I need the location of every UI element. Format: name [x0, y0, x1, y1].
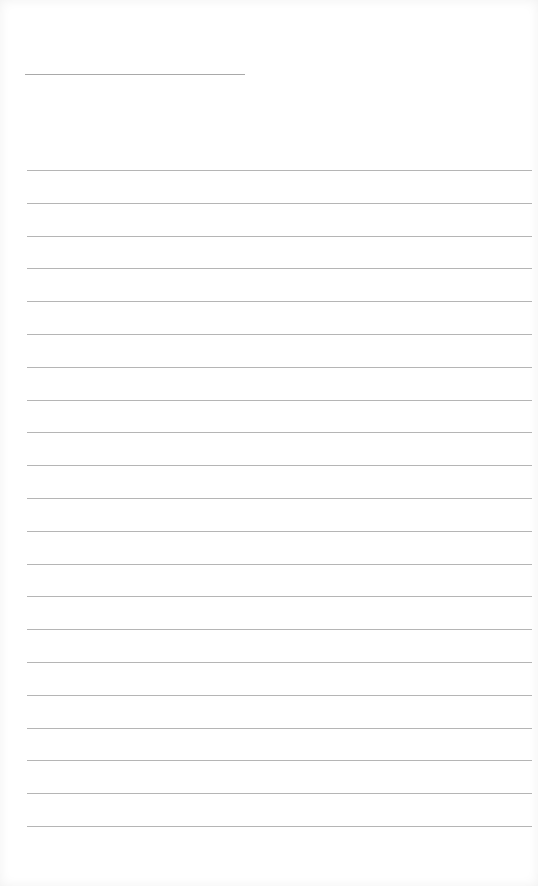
ruled-line	[27, 826, 532, 827]
ruled-line	[27, 793, 532, 794]
ruled-line	[27, 564, 532, 565]
ruled-line	[27, 236, 532, 237]
ruled-line	[27, 367, 532, 368]
ruled-line	[27, 498, 532, 499]
ruled-line	[27, 432, 532, 433]
lined-paper-page	[0, 0, 538, 886]
ruled-line	[27, 301, 532, 302]
ruled-line	[27, 695, 532, 696]
ruled-line	[27, 728, 532, 729]
ruled-line	[27, 170, 532, 171]
ruled-line	[27, 334, 532, 335]
ruled-line	[27, 760, 532, 761]
ruled-line	[27, 203, 532, 204]
ruled-line	[27, 662, 532, 663]
ruled-line	[27, 268, 532, 269]
ruled-line	[27, 531, 532, 532]
ruled-line	[27, 596, 532, 597]
ruled-line	[27, 629, 532, 630]
ruled-line	[27, 400, 532, 401]
header-name-line	[25, 74, 245, 75]
ruled-line	[27, 465, 532, 466]
